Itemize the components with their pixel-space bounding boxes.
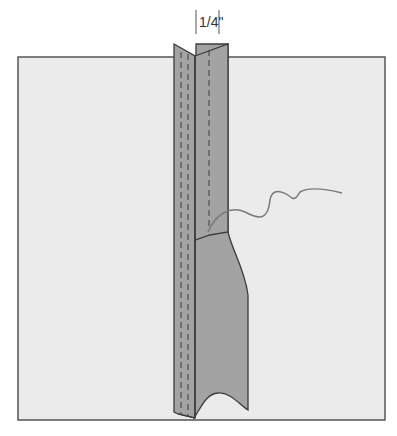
- seam-diagram: [0, 0, 397, 436]
- measurement-label: 1/4": [199, 14, 223, 30]
- seam-allowance-left: [174, 44, 195, 418]
- seam-allowance-right: [195, 44, 228, 240]
